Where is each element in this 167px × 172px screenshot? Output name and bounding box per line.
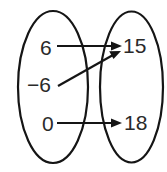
mapping-diagram-canvas xyxy=(0,0,167,172)
domain-value-0: 0 xyxy=(42,113,54,134)
domain-value-negative-6: −6 xyxy=(27,74,51,95)
arrow-6-to-15 xyxy=(57,42,122,51)
arrow-0-to-18 xyxy=(57,119,122,128)
mapping-diagram: 6 −6 0 15 18 xyxy=(0,0,167,172)
arrow-neg6-to-15 xyxy=(58,51,121,86)
range-value-18: 18 xyxy=(124,112,147,133)
domain-value-6: 6 xyxy=(40,37,52,58)
range-value-15: 15 xyxy=(123,35,146,56)
